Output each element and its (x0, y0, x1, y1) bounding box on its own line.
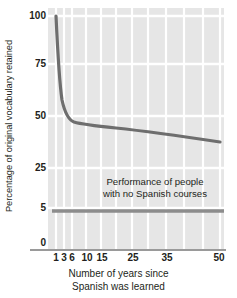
x-axis-line (30, 249, 226, 251)
x-tick-6: 6 (69, 252, 75, 264)
y-axis-ticks: 100 75 50 25 5 0 (18, 0, 46, 252)
x-tick-10: 10 (81, 252, 92, 264)
x-tick-35: 35 (161, 252, 172, 264)
x-tick-1: 1 (53, 252, 59, 264)
x-tick-15: 15 (96, 252, 107, 264)
horizontal-gridlines (48, 16, 224, 208)
x-tick-3: 3 (61, 252, 67, 264)
y-tick-5: 5 (20, 203, 46, 213)
x-axis-ticks: 1 3 6 10 15 25 35 50 (0, 252, 237, 266)
x-tick-50: 50 (213, 252, 224, 264)
y-axis-title: Percentage of original vocabulary retain… (0, 0, 18, 252)
retention-curve-figure: Percentage of original vocabulary retain… (0, 0, 237, 298)
y-tick-0: 0 (20, 238, 46, 248)
plot-area: Performance of people with no Spanish co… (48, 8, 224, 249)
y-tick-50: 50 (20, 111, 46, 121)
x-axis-title-line-2: Spanish was learned (0, 280, 237, 293)
x-tick-25: 25 (127, 252, 138, 264)
plot-svg (48, 8, 224, 249)
y-tick-100: 100 (20, 11, 46, 21)
vertical-gridlines (56, 8, 220, 249)
y-axis-title-label: Percentage of original vocabulary retain… (4, 40, 14, 212)
x-axis-title-line-1: Number of years since (0, 267, 237, 280)
x-axis-title: Number of years since Spanish was learne… (0, 267, 237, 293)
y-tick-75: 75 (20, 59, 46, 69)
retention-curve-line (56, 16, 220, 142)
y-tick-25: 25 (20, 163, 46, 173)
